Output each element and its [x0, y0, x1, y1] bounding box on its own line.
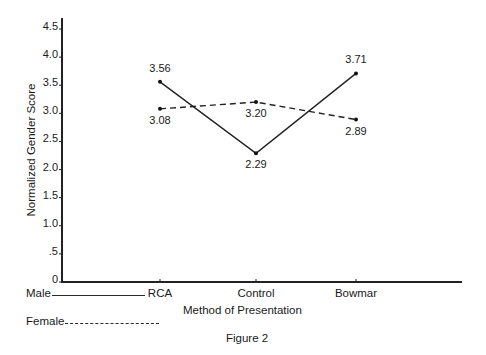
legend-label-female: Female: [26, 315, 64, 327]
y-tick-label: 3.0: [43, 104, 58, 116]
y-tick-label: 3.5: [43, 76, 58, 88]
data-value-label: 3.56: [149, 62, 170, 74]
legend-item-female: Female: [26, 315, 159, 327]
data-point-female: [158, 107, 162, 111]
data-point-male: [254, 151, 258, 155]
y-tick-label: 2.5: [43, 132, 58, 144]
x-tick-label: RCA: [148, 287, 173, 299]
line-chart: 0.51.01.52.02.53.03.54.04.5 RCAControlBo…: [0, 0, 486, 355]
data-point-male: [354, 71, 358, 75]
legend-solid-line-swatch: [52, 295, 145, 296]
y-tick-label: 1.0: [43, 217, 58, 229]
y-tick-label: .5: [49, 245, 58, 257]
data-value-label: 2.29: [245, 158, 266, 170]
figure-caption: Figure 2: [226, 332, 268, 344]
y-tick-label: 2.0: [43, 161, 58, 173]
data-value-label: 2.89: [345, 125, 366, 137]
y-tick-label: 0: [52, 273, 58, 285]
y-axis-ticks: 0.51.01.52.02.53.03.54.04.5: [43, 20, 62, 285]
y-axis-title: Normalized Gender Score: [25, 84, 37, 217]
legend-item-male: Male: [26, 287, 145, 299]
x-tick-label: Control: [237, 287, 274, 299]
data-value-label: 3.71: [345, 53, 366, 65]
data-point-female: [254, 100, 258, 104]
data-value-label: 3.20: [245, 107, 266, 119]
legend-dashed-line-swatch: [65, 323, 159, 324]
y-tick-label: 4.5: [43, 20, 58, 32]
x-axis-title: Method of Presentation: [183, 304, 302, 316]
data-value-label: 3.08: [149, 114, 170, 126]
data-labels: 3.562.293.713.083.202.89: [149, 53, 366, 170]
y-tick-label: 1.5: [43, 189, 58, 201]
legend-label-male: Male: [26, 287, 51, 299]
data-point-female: [354, 118, 358, 122]
axes: [62, 18, 462, 283]
y-tick-label: 4.0: [43, 48, 58, 60]
x-tick-label: Bowmar: [335, 287, 377, 299]
data-point-male: [158, 80, 162, 84]
